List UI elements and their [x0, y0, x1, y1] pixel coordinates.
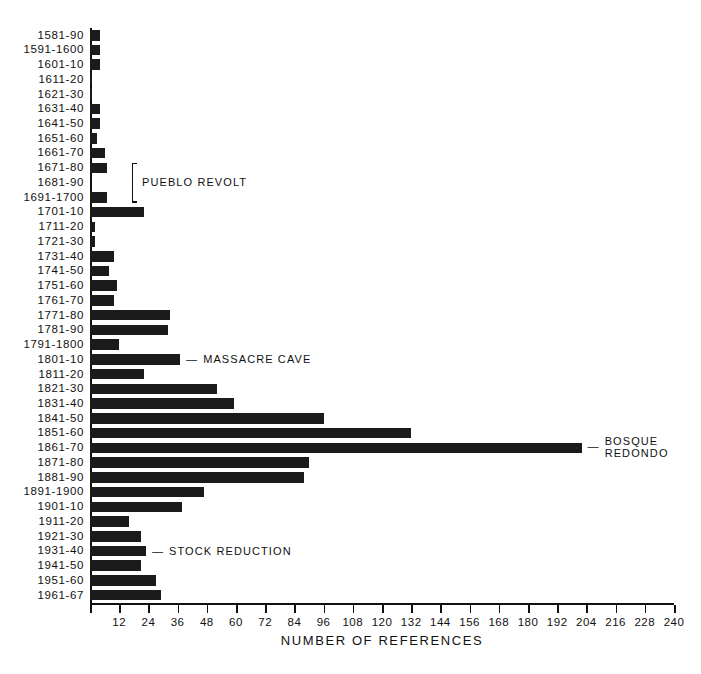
bar — [90, 163, 107, 174]
category-label: 1941-50 — [38, 560, 84, 572]
bar-row: 1801-10 — [90, 352, 674, 367]
bar-row: 1751-60 — [90, 278, 674, 293]
bar — [90, 546, 146, 557]
category-label: 1621-30 — [38, 89, 84, 101]
category-label: 1811-20 — [38, 369, 84, 381]
bar — [90, 59, 100, 70]
x-tick-label: 132 — [401, 616, 422, 628]
bar-row: 1771-80 — [90, 308, 674, 323]
bar — [90, 280, 117, 291]
x-tick-label: 96 — [317, 616, 331, 628]
category-label: 1841-50 — [38, 413, 84, 425]
bar-row: 1921-30 — [90, 529, 674, 544]
bar-row: 1731-40 — [90, 249, 674, 264]
x-tick-label: 228 — [634, 616, 655, 628]
bar — [90, 354, 180, 365]
x-tick-label: 216 — [605, 616, 626, 628]
category-label: 1851-60 — [38, 427, 84, 439]
bar — [90, 133, 97, 144]
bar — [90, 443, 582, 454]
dash-icon: — — [152, 545, 164, 558]
references-by-decade-bar-chart: 1581-901591-16001601-101611-201621-30163… — [0, 0, 701, 674]
bar — [90, 104, 100, 115]
bar — [90, 251, 114, 262]
x-tick-label: 24 — [141, 616, 155, 628]
bar — [90, 516, 129, 527]
bar-row: 1881-90 — [90, 470, 674, 485]
x-tick — [236, 605, 238, 613]
x-tick — [586, 605, 588, 613]
category-label: 1611-20 — [38, 74, 84, 86]
x-tick — [528, 605, 530, 613]
category-label: 1821-30 — [38, 383, 84, 395]
bar-row: 1601-10 — [90, 57, 674, 72]
bar-row: 1791-1800 — [90, 337, 674, 352]
category-label: 1631-40 — [38, 103, 84, 115]
bar-row: 1721-30 — [90, 234, 674, 249]
x-tick-label: 48 — [200, 616, 214, 628]
bar — [90, 89, 92, 100]
bar — [90, 295, 114, 306]
category-label: 1681-90 — [38, 177, 84, 189]
bar — [90, 222, 95, 233]
x-tick — [119, 605, 121, 613]
bar-row: 1891-1900 — [90, 485, 674, 500]
x-tick — [645, 605, 647, 613]
category-label: 1871-80 — [38, 457, 84, 469]
bar — [90, 192, 107, 203]
dash-icon: — — [588, 440, 600, 453]
bar-row: 1851-60 — [90, 426, 674, 441]
x-tick — [265, 605, 267, 613]
x-tick-label: 72 — [258, 616, 272, 628]
bar-row: 1941-50 — [90, 558, 674, 573]
bar-row: 1651-60 — [90, 131, 674, 146]
bar-row: 1901-10 — [90, 500, 674, 515]
bar — [90, 575, 156, 586]
bar — [90, 310, 170, 321]
brace-pueblo-revolt — [132, 163, 133, 203]
bar-row: 1961-67 — [90, 588, 674, 603]
category-label: 1761-70 — [38, 295, 84, 307]
bar-row: 1951-60 — [90, 573, 674, 588]
bar — [90, 266, 109, 277]
x-tick — [499, 605, 501, 613]
bar — [90, 560, 141, 571]
x-tick-label: 156 — [459, 616, 480, 628]
bar — [90, 472, 304, 483]
bar-row: 1831-40 — [90, 396, 674, 411]
category-label: 1751-60 — [38, 280, 84, 292]
category-label: 1671-80 — [38, 162, 84, 174]
annotation-stock-reduction: —STOCK REDUCTION — [152, 545, 292, 558]
bar-row: 1591-1600 — [90, 43, 674, 58]
category-label: 1731-40 — [38, 251, 84, 263]
bar-row: 1621-30 — [90, 87, 674, 102]
bar-row: 1641-50 — [90, 116, 674, 131]
x-tick — [440, 605, 442, 613]
bar-row: 1821-30 — [90, 382, 674, 397]
bar — [90, 590, 161, 601]
x-tick — [616, 605, 618, 613]
bar — [90, 148, 105, 159]
category-label: 1921-30 — [38, 531, 84, 543]
x-tick — [148, 605, 150, 613]
bar-row: 1781-90 — [90, 323, 674, 338]
bar — [90, 413, 324, 424]
category-label: 1661-70 — [38, 147, 84, 159]
bar-row: 1711-20 — [90, 220, 674, 235]
category-label: 1931-40 — [38, 545, 84, 557]
x-tick — [353, 605, 355, 613]
category-label: 1721-30 — [38, 236, 84, 248]
category-label: 1881-90 — [38, 472, 84, 484]
category-label: 1591-1600 — [24, 44, 84, 56]
bar-row: 1741-50 — [90, 264, 674, 279]
bar-row: 1911-20 — [90, 514, 674, 529]
category-label: 1581-90 — [38, 30, 84, 42]
category-label: 1961-67 — [38, 590, 84, 602]
x-tick — [178, 605, 180, 613]
x-tick — [90, 605, 92, 613]
bar-row: 1661-70 — [90, 146, 674, 161]
category-label: 1951-60 — [38, 575, 84, 587]
category-label: 1601-10 — [38, 59, 84, 71]
annotation-line-2: REDONDO — [605, 447, 669, 460]
bar-row: 1841-50 — [90, 411, 674, 426]
